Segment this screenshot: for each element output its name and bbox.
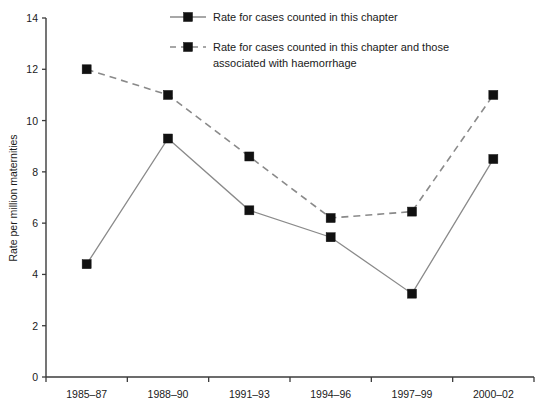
line-chart: 02468101214 1985–871988–901991–931994–96… (0, 0, 548, 415)
data-point-marker (82, 65, 91, 74)
legend-marker-square-solid (184, 13, 193, 22)
legend-marker-square-dashed (184, 43, 193, 52)
x-axis-tick-labels: 1985–871988–901991–931994–961997–992000–… (66, 388, 514, 400)
legend-entry-solid[interactable]: Rate for cases counted in this chapter (170, 11, 398, 23)
data-point-marker (489, 90, 498, 99)
y-axis-tick-labels: 02468101214 (26, 12, 38, 383)
y-tick-label: 10 (26, 115, 38, 127)
chart-container: 02468101214 1985–871988–901991–931994–96… (0, 0, 548, 415)
y-tick-label: 0 (32, 371, 38, 383)
data-point-marker (245, 206, 254, 215)
data-point-marker (164, 90, 173, 99)
y-tick-label: 4 (32, 268, 38, 280)
data-point-marker (326, 214, 335, 223)
legend-label-dashed-line2: associated with haemorrhage (213, 57, 357, 69)
y-tick-label: 6 (32, 217, 38, 229)
legend-label-dashed-line1: Rate for cases counted in this chapter a… (213, 41, 449, 53)
legend-entry-dashed[interactable]: Rate for cases counted in this chapter a… (170, 41, 449, 69)
data-point-marker (408, 207, 417, 216)
x-tick-label: 1994–96 (310, 388, 351, 400)
x-tick-label: 1997–99 (392, 388, 433, 400)
data-point-marker (489, 155, 498, 164)
series-line-2 (87, 69, 494, 218)
y-tick-label: 14 (26, 12, 38, 24)
series-line-1 (87, 139, 494, 294)
data-point-marker (82, 260, 91, 269)
data-point-marker (408, 289, 417, 298)
data-point-marker (245, 152, 254, 161)
y-axis-title: Rate per million maternities (7, 134, 19, 261)
series-markers (82, 65, 498, 298)
x-tick-label: 2000–02 (473, 388, 514, 400)
legend: Rate for cases counted in this chapter R… (170, 11, 449, 69)
x-tick-label: 1988–90 (148, 388, 189, 400)
y-tick-label: 2 (32, 320, 38, 332)
x-tick-label: 1985–87 (66, 388, 107, 400)
y-tick-label: 12 (26, 63, 38, 75)
y-tick-label: 8 (32, 166, 38, 178)
data-point-marker (164, 134, 173, 143)
legend-label-solid: Rate for cases counted in this chapter (213, 11, 398, 23)
x-tick-label: 1991–93 (229, 388, 270, 400)
data-point-marker (326, 233, 335, 242)
x-axis-ticks (46, 377, 534, 382)
series-lines (87, 69, 494, 293)
